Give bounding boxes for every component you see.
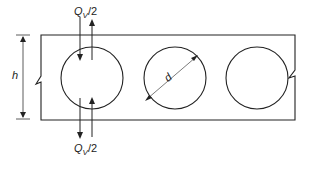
shear-bottom-label: QV/2: [74, 142, 97, 157]
diagram-canvas: d h QV/2 QV/2: [0, 0, 313, 175]
height-label: h: [12, 69, 18, 81]
shear-arrows-bottom: [77, 97, 95, 139]
arrow-up-icon: [89, 19, 95, 26]
opening-3: [226, 47, 288, 109]
arrow-up-icon: [89, 97, 95, 104]
arrow-down-icon: [77, 132, 83, 139]
shear-arrows-top: [77, 17, 95, 61]
shear-top-label: QV/2: [74, 5, 97, 20]
arrow-down-icon: [77, 54, 83, 61]
